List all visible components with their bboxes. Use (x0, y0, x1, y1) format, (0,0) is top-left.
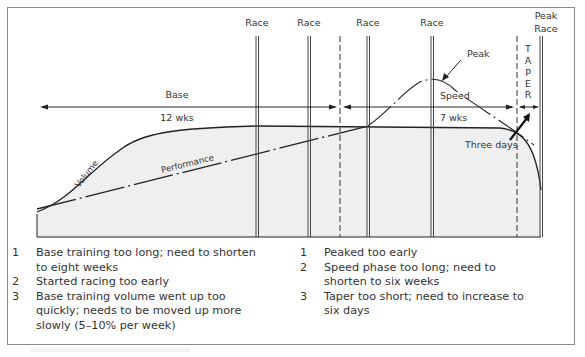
note-right-1: 1 Peaked too early (300, 246, 530, 261)
peak-label: Peak (467, 48, 490, 59)
note-left-3: 3 Base training volume went up too quick… (12, 290, 257, 334)
race-label-3: Race (356, 17, 379, 28)
note-right-3: 3 Taper too short; need to increase to s… (300, 290, 530, 319)
peak-race-label-line2: Race (534, 23, 557, 34)
peak-pointer (445, 60, 461, 78)
note-number: 1 (300, 246, 324, 261)
note-text: Started racing too early (36, 275, 257, 290)
peak-race-line (540, 36, 543, 237)
three-days-label: Three days (464, 139, 518, 150)
race-label-4: Race (420, 17, 443, 28)
note-text: Base training too long; need to shorten … (36, 246, 257, 275)
note-left-1: 1 Base training too long; need to shorte… (12, 246, 257, 275)
notes-left: 1 Base training too long; need to shorte… (12, 246, 257, 334)
note-text: Base training volume went up too quickly… (36, 290, 257, 334)
taper-letter-r: R (525, 89, 532, 100)
note-left-2: 2 Started racing too early (12, 275, 257, 290)
peak-race-label-line1: Peak (535, 10, 558, 21)
race-label-1: Race (245, 17, 268, 28)
note-number: 1 (12, 246, 36, 275)
notes-right: 1 Peaked too early 2 Speed phase too lon… (300, 246, 530, 319)
race-label-2: Race (297, 17, 320, 28)
taper-letter-a: A (525, 55, 532, 66)
note-text: Speed phase too long; need to shorten to… (324, 261, 530, 290)
base-label: Base (165, 89, 188, 100)
note-number: 2 (12, 275, 36, 290)
speed-duration: 7 wks (440, 112, 467, 123)
note-number: 3 (300, 290, 324, 319)
note-number: 2 (300, 261, 324, 290)
note-right-2: 2 Speed phase too long; need to shorten … (300, 261, 530, 290)
taper-letter-p: P (525, 67, 531, 78)
taper-letter-e: E (525, 78, 531, 89)
note-text: Peaked too early (324, 246, 530, 261)
base-duration: 12 wks (160, 112, 193, 123)
faint-caption (30, 348, 190, 352)
note-text: Taper too short; need to increase to six… (324, 290, 530, 319)
speed-label: Speed (440, 90, 470, 101)
note-number: 3 (12, 290, 36, 334)
taper-letter-t: T (524, 43, 531, 54)
